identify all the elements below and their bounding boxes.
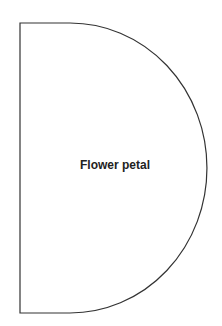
petal-label: Flower petal: [0, 158, 222, 172]
